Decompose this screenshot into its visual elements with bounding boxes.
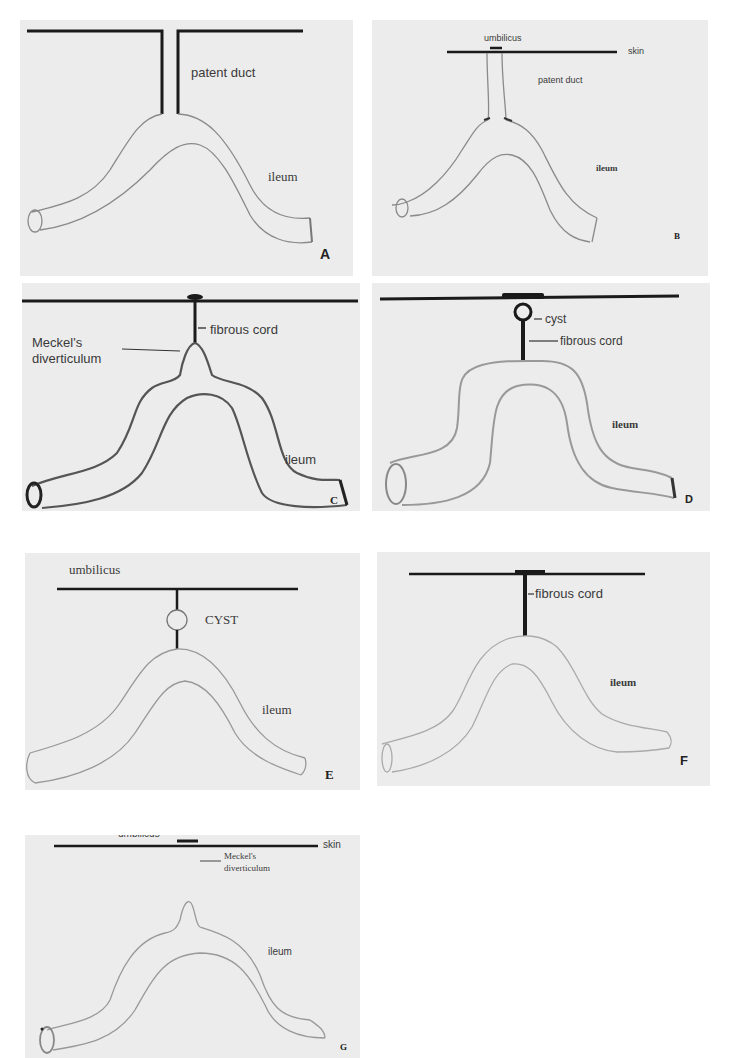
label-cyst: CYST xyxy=(205,613,238,626)
panel-c-drawing xyxy=(22,283,360,511)
label-umbilicus: umbilicus xyxy=(118,835,160,839)
panel-letter-b: B xyxy=(674,232,680,241)
label-patent-duct: patent duct xyxy=(191,66,255,79)
panel-e-umbilical-cyst: umbilicus CYST ileum E xyxy=(25,553,360,790)
panel-g-drawing xyxy=(25,835,360,1058)
label-patent-duct: patent duct xyxy=(538,76,583,85)
label-meckels: Meckel's xyxy=(32,336,82,349)
label-ileum: ileum xyxy=(262,703,292,716)
label-ileum: ileum xyxy=(612,419,638,430)
label-ileum: ileum xyxy=(268,947,292,957)
panel-b-drawing xyxy=(372,20,708,276)
panel-c-meckels-diverticulum-fibrous-cord: fibrous cord Meckel's diverticulum ileum… xyxy=(22,283,360,511)
panel-f-fibrous-cord: fibrous cord ileum F xyxy=(377,552,710,786)
label-ileum: ileum xyxy=(610,677,636,688)
label-diverticulum: diverticulum xyxy=(32,352,101,365)
panel-d-drawing xyxy=(372,283,710,511)
panel-a-patent-duct: patent duct ileum A xyxy=(20,20,353,276)
label-ileum: ileum xyxy=(596,164,618,173)
label-umbilicus: umbilicus xyxy=(484,34,522,43)
panel-letter-g: G xyxy=(340,1043,347,1052)
panel-d-cyst-fibrous-cord: cyst fibrous cord ileum D xyxy=(372,283,710,511)
label-fibrous-cord: fibrous cord xyxy=(535,587,603,600)
label-skin: skin xyxy=(323,840,341,850)
label-meckels: Meckel's xyxy=(224,852,256,861)
label-skin: skin xyxy=(628,47,644,56)
panel-a-drawing xyxy=(20,20,353,276)
label-cyst: cyst xyxy=(545,313,566,325)
panel-letter-d: D xyxy=(685,494,693,505)
panel-e-drawing xyxy=(25,553,360,790)
panel-letter-e: E xyxy=(325,768,334,781)
label-ileum: ileum xyxy=(285,453,316,466)
panel-letter-c: C xyxy=(330,495,338,506)
panel-letter-a: A xyxy=(320,247,330,261)
panel-letter-f: F xyxy=(680,754,688,767)
label-ileum: ileum xyxy=(268,170,298,183)
label-diverticulum: diverticulum xyxy=(224,864,270,873)
label-umbilicus: umbilicus xyxy=(69,563,120,576)
label-fibrous-cord: fibrous cord xyxy=(560,335,623,347)
label-fibrous-cord: fibrous cord xyxy=(210,323,278,336)
panel-g-meckels-diverticulum: umbilicus skin Meckel's diverticulum ile… xyxy=(25,835,360,1058)
panel-b-patent-duct: umbilicus skin patent duct ileum B xyxy=(372,20,708,276)
